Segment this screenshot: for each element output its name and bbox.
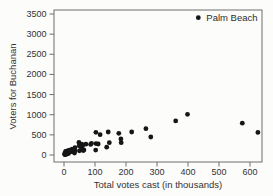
data-point xyxy=(119,137,124,142)
x-tick-label: 500 xyxy=(211,167,226,177)
data-point xyxy=(77,140,82,145)
data-point xyxy=(185,112,190,117)
data-point xyxy=(94,130,99,135)
y-tick-label: 500 xyxy=(31,130,46,140)
data-point xyxy=(173,119,178,124)
data-point xyxy=(144,126,149,131)
scatter-plot-figure: 0100200300400500600050010001500200025003… xyxy=(0,0,273,196)
y-tick-label: 1500 xyxy=(26,90,46,100)
plot-frame xyxy=(54,10,262,162)
y-tick-label: 3500 xyxy=(26,9,46,19)
y-tick-label: 0 xyxy=(41,150,46,160)
data-point xyxy=(84,142,89,147)
data-point xyxy=(129,130,134,135)
data-point xyxy=(107,140,112,145)
data-point xyxy=(82,148,87,153)
x-tick-label: 600 xyxy=(242,167,257,177)
data-point xyxy=(104,145,109,150)
data-point xyxy=(98,132,103,137)
data-point xyxy=(148,135,153,140)
y-axis-title: Voters for Buchanan xyxy=(7,11,20,163)
data-point xyxy=(240,121,245,126)
data-point xyxy=(96,142,101,147)
x-tick-label: 0 xyxy=(61,167,66,177)
data-point xyxy=(106,130,111,135)
x-tick-label: 400 xyxy=(180,167,195,177)
y-tick-label: 1000 xyxy=(26,110,46,120)
y-tick-label: 2000 xyxy=(26,69,46,79)
data-point xyxy=(256,130,261,135)
data-point xyxy=(93,148,98,153)
x-axis-title: Total votes cast (in thousands) xyxy=(54,179,262,190)
y-tick-label: 3000 xyxy=(26,29,46,39)
data-point xyxy=(196,15,201,20)
y-tick-label: 2500 xyxy=(26,49,46,59)
palm-beach-annotation-label: Palm Beach xyxy=(206,12,257,23)
x-tick-label: 300 xyxy=(149,167,164,177)
data-point xyxy=(89,141,94,146)
data-point xyxy=(64,149,69,154)
x-tick-label: 200 xyxy=(118,167,133,177)
plot-area: 0100200300400500600050010001500200025003… xyxy=(0,0,273,196)
x-tick-label: 100 xyxy=(87,167,102,177)
data-point xyxy=(116,131,121,136)
